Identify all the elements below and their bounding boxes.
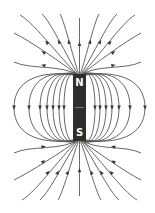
field-arrow-icon — [45, 106, 49, 110]
field-line-south — [58, 139, 80, 200]
field-arrow-icon — [65, 170, 70, 175]
field-arrow-icon — [57, 106, 61, 110]
south-pole-label: S — [76, 127, 83, 138]
field-line-north — [80, 14, 100, 76]
field-arrow-icon — [93, 106, 97, 110]
field-loop — [80, 74, 131, 142]
field-arrow-icon — [143, 106, 147, 110]
field-arrow-icon — [111, 144, 116, 148]
bar-magnet-field-diagram: N S — [0, 0, 155, 213]
field-line-south — [80, 139, 138, 200]
field-arrow-icon — [51, 106, 55, 110]
field-line-south — [40, 139, 80, 200]
field-arrow-icon — [110, 106, 114, 110]
field-arrow-icon — [78, 42, 82, 46]
field-line-north — [80, 14, 118, 76]
field-arrow-icon — [98, 106, 102, 110]
field-arrow-icon — [104, 106, 108, 110]
field-arrow-icon — [89, 170, 94, 175]
bar-magnet: N S — [73, 74, 86, 141]
field-arrow-icon — [78, 168, 82, 172]
field-arrow-icon — [12, 106, 16, 110]
field-arrow-icon — [128, 106, 132, 110]
field-line-north — [80, 15, 136, 76]
field-arrow-icon — [27, 106, 31, 110]
field-arrow-icon — [38, 106, 42, 110]
field-line-south — [22, 139, 80, 200]
field-arrow-icon — [117, 106, 121, 110]
field-arrow-icon — [62, 106, 66, 110]
north-pole-label: N — [75, 77, 83, 88]
field-line-south — [80, 139, 102, 200]
field-line-north — [42, 14, 80, 76]
field-line-north — [80, 33, 142, 76]
field-loop — [29, 74, 80, 142]
field-arrow-icon — [41, 144, 46, 148]
field-line-north — [14, 33, 80, 76]
